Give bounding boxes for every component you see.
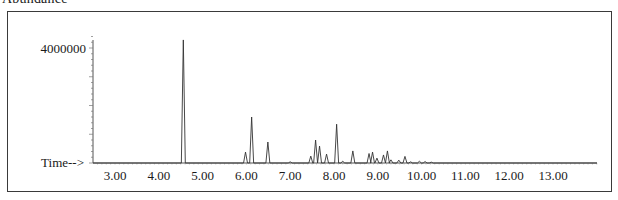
x-tick-label: 9.00: [366, 168, 389, 183]
x-tick-label: 13.00: [538, 168, 567, 183]
x-axis-label: Time-->: [41, 155, 84, 170]
chromatogram-trace: [93, 40, 597, 163]
x-tick-label: 11.00: [451, 168, 480, 183]
chromatogram-chart: 40000003.004.005.006.007.008.009.0010.00…: [0, 0, 618, 200]
x-tick-label: 10.00: [407, 168, 436, 183]
x-tick-label: 8.00: [323, 168, 346, 183]
x-tick-label: 5.00: [191, 168, 214, 183]
x-tick-label: 4.00: [147, 168, 170, 183]
x-tick-label: 3.00: [104, 168, 127, 183]
y-tick-label: 4000000: [41, 41, 87, 56]
x-tick-label: 12.00: [495, 168, 524, 183]
x-tick-label: 7.00: [279, 168, 302, 183]
x-tick-label: 6.00: [235, 168, 258, 183]
